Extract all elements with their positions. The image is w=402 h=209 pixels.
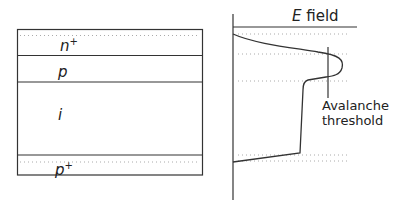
- field-plot: E field Avalanche threshold: [233, 7, 389, 200]
- layer-label-p: p: [57, 63, 68, 81]
- threshold-label-line1: Avalanche: [322, 98, 389, 113]
- device-stack: n+ p i p+: [17, 30, 203, 180]
- layer-label-n-plus: n+: [60, 36, 78, 55]
- layer-label-i: i: [58, 106, 63, 124]
- layer-label-p-plus: p+: [54, 160, 73, 179]
- apd-diagram: n+ p i p+ E field Avalanche threshold: [0, 0, 402, 209]
- device-outline: [18, 30, 203, 176]
- threshold-label-line2: threshold: [322, 113, 383, 128]
- field-axis-title: E field: [292, 7, 339, 25]
